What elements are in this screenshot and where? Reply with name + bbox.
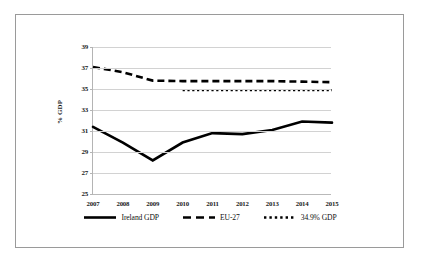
x-axis-tick-label: 2009 <box>146 200 159 207</box>
y-axis-tick-label: 39 <box>81 43 88 51</box>
y-axis-tick-label: 37 <box>81 64 88 72</box>
plot-area: 3937353331292725200720082009201020112012… <box>92 47 331 194</box>
series-line <box>93 67 332 82</box>
series-layer <box>93 47 332 194</box>
solid-line-marker <box>84 213 116 222</box>
dotted-line-marker <box>264 213 296 222</box>
gridline <box>93 194 331 195</box>
x-axis-tick-label: 2008 <box>116 200 129 207</box>
screenshot-root: % GDP 3937353331292725200720082009201020… <box>0 0 427 260</box>
y-axis-tick-label: 29 <box>81 148 88 156</box>
x-axis-tick-label: 2011 <box>206 200 218 207</box>
y-tick-mark <box>90 110 93 111</box>
gridline <box>93 152 331 153</box>
y-tick-mark <box>90 131 93 132</box>
series-line <box>93 122 332 161</box>
legend-label: EU-27 <box>220 213 240 222</box>
y-axis-tick-label: 33 <box>81 106 88 114</box>
legend-label: Ireland GDP <box>121 213 159 222</box>
x-axis-tick-label: 2012 <box>236 200 249 207</box>
dashed-line-marker <box>183 213 215 222</box>
gridline <box>93 131 331 132</box>
y-axis-title: % GDP <box>56 100 64 124</box>
x-axis-tick-label: 2010 <box>176 200 189 207</box>
gridline <box>93 110 331 111</box>
y-tick-mark <box>90 152 93 153</box>
legend-item[interactable]: Ireland GDP <box>84 213 159 222</box>
gridline <box>93 89 331 90</box>
legend-item[interactable]: EU-27 <box>183 213 240 222</box>
y-tick-mark <box>90 173 93 174</box>
y-axis-tick-label: 31 <box>81 127 88 135</box>
chart-legend: Ireland GDPEU-2734.9% GDP <box>16 213 405 222</box>
x-axis-tick-label: 2007 <box>87 200 100 207</box>
x-axis-tick-label: 2015 <box>326 200 339 207</box>
y-axis-tick-label: 27 <box>81 169 88 177</box>
y-tick-mark <box>90 47 93 48</box>
y-tick-mark <box>90 89 93 90</box>
y-tick-mark <box>90 68 93 69</box>
legend-item[interactable]: 34.9% GDP <box>264 213 337 222</box>
x-axis-tick-label: 2013 <box>266 200 279 207</box>
gridline <box>93 68 331 69</box>
line-chart: % GDP 3937353331292725200720082009201020… <box>16 15 405 249</box>
y-tick-mark <box>90 194 93 195</box>
y-axis-tick-label: 35 <box>81 85 88 93</box>
figure-frame: % GDP 3937353331292725200720082009201020… <box>15 14 404 248</box>
gridline <box>93 47 331 48</box>
x-axis-tick-label: 2014 <box>296 200 309 207</box>
gridline <box>93 173 331 174</box>
legend-label: 34.9% GDP <box>301 213 337 222</box>
y-axis-tick-label: 25 <box>81 190 88 198</box>
